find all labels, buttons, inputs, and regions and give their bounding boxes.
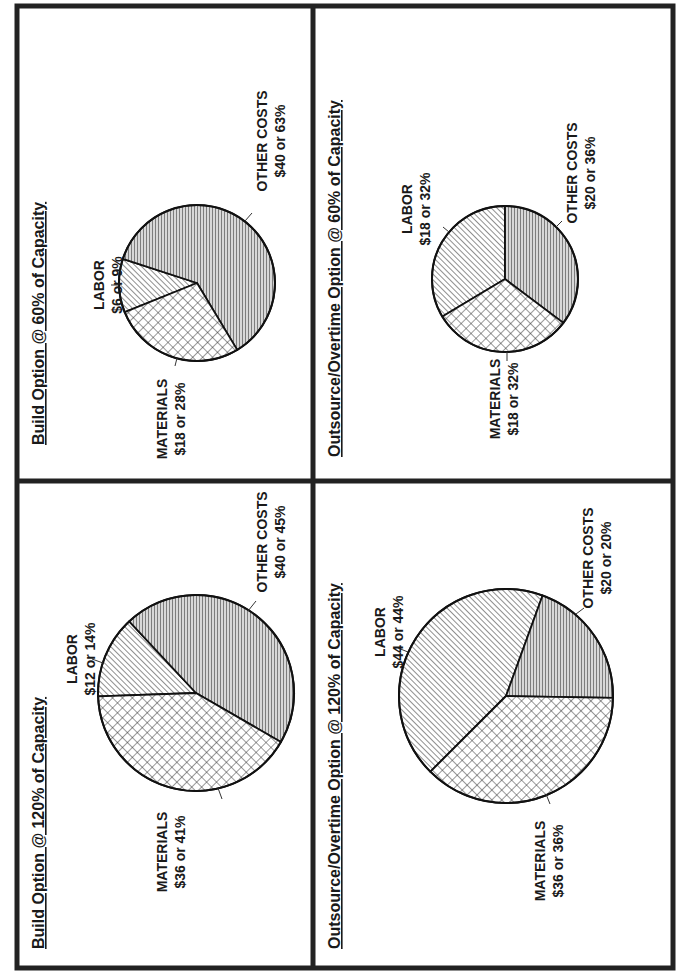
label-other-costs: OTHER COSTS: [254, 491, 270, 592]
panel-outsource-120: Outsource/Overtime Option @ 120% of Capa…: [326, 507, 614, 949]
label-materials: MATERIALS: [154, 812, 170, 893]
label-other-costs: OTHER COSTS: [254, 90, 270, 191]
value-labor: $18 or 32%: [417, 172, 433, 246]
value-materials: $18 or 28%: [172, 382, 188, 456]
pie-build-120: [92, 595, 294, 799]
pie-build-60: [111, 205, 275, 366]
pie-outsource-120: [398, 589, 613, 804]
value-other-costs: $20 or 36%: [582, 136, 598, 210]
panel-build-120: Build Option @ 120% of Capacity LABOR $1…: [30, 491, 294, 949]
panel-outsource-60: Outsource/Overtime Option @ 60% of Capac…: [326, 100, 598, 457]
value-other-costs: $20 or 20%: [598, 521, 614, 595]
panel-title: Build Option @ 60% of Capacity: [30, 202, 47, 445]
value-other-costs: $40 or 45%: [272, 505, 288, 579]
pie-outsource-60: [432, 206, 578, 361]
label-labor: LABOR: [399, 184, 415, 234]
label-labor: LABOR: [91, 260, 107, 310]
label-other-costs: OTHER COSTS: [564, 122, 580, 223]
label-materials: MATERIALS: [154, 379, 170, 460]
value-labor: $44 or 44%: [390, 595, 406, 669]
label-labor: LABOR: [64, 634, 80, 684]
pie-chart-grid: Build Option @ 120% of Capacity LABOR $1…: [0, 0, 693, 979]
label-other-costs: OTHER COSTS: [580, 507, 596, 608]
panel-title: Outsource/Overtime Option @ 120% of Capa…: [326, 583, 343, 949]
panel-build-60: Build Option @ 60% of Capacity LABOR $6 …: [30, 90, 288, 459]
value-labor: $12 or 14%: [82, 622, 98, 696]
label-labor: LABOR: [372, 607, 388, 657]
label-materials: MATERIALS: [532, 821, 548, 902]
label-materials: MATERIALS: [487, 359, 503, 440]
value-materials: $36 or 36%: [550, 824, 566, 898]
chart-page: Build Option @ 120% of Capacity LABOR $1…: [0, 0, 693, 979]
value-materials: $18 or 32%: [505, 362, 521, 436]
panel-title: Outsource/Overtime Option @ 60% of Capac…: [326, 100, 343, 457]
value-labor: $6 or 9%: [109, 256, 125, 314]
value-materials: $36 or 41%: [172, 815, 188, 889]
panel-title: Build Option @ 120% of Capacity: [30, 697, 47, 949]
value-other-costs: $40 or 63%: [272, 104, 288, 178]
